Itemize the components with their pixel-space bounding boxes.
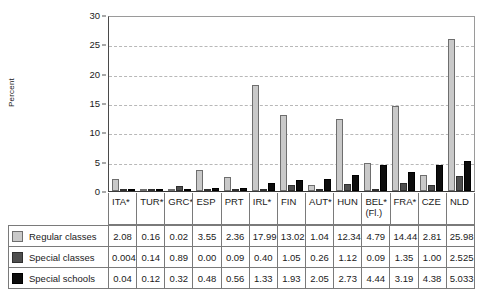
category-label: FIN [278, 193, 306, 224]
table-cell: 1.00 [418, 247, 446, 268]
y-tick-label: 5 [80, 158, 100, 168]
category-label: GRC* [165, 193, 193, 224]
category-label: CZE [419, 193, 447, 224]
legend-label: Special classes [29, 252, 94, 263]
table-cell: 0.14 [137, 247, 165, 268]
table-cell: 4.44 [362, 268, 390, 289]
category-name: GRC* [168, 196, 193, 207]
bar [352, 175, 359, 191]
table-cell: 3.19 [390, 268, 418, 289]
table-cell: 0.09 [221, 247, 249, 268]
table-cell: 12.34 [334, 226, 362, 247]
table-cell: 0.26 [305, 247, 333, 268]
table-cell: 0.89 [165, 247, 193, 268]
bar [344, 184, 351, 191]
table-cell: 4.79 [362, 226, 390, 247]
bar [428, 185, 435, 191]
table-cell: 14.44 [390, 226, 418, 247]
bar-group [334, 17, 362, 191]
bar [420, 175, 427, 191]
bar-group [306, 17, 334, 191]
bar [184, 189, 191, 191]
table-cell: 0.12 [137, 268, 165, 289]
category-label: IRL* [250, 193, 278, 224]
legend-cell: Special schools [9, 268, 109, 289]
category-name: CZE [422, 196, 441, 207]
table-cell: 0.48 [193, 268, 221, 289]
bar [120, 189, 127, 191]
bar-group [249, 17, 277, 191]
table-cell: 5.033 [446, 268, 474, 289]
legend-cell: Special classes [9, 247, 109, 268]
bar [436, 165, 443, 191]
table-cell: 1.93 [277, 268, 305, 289]
table-cell: 0.004 [109, 247, 137, 268]
y-tick-label: 20 [80, 70, 100, 80]
category-label: PRT [222, 193, 250, 224]
table-cell: 1.35 [390, 247, 418, 268]
y-axis-title: Percent [7, 63, 16, 123]
category-name: ITA* [112, 196, 130, 207]
bar [372, 189, 379, 191]
bar [224, 177, 231, 191]
data-table: Regular classes2.080.160.023.552.3617.99… [8, 225, 475, 289]
bar [252, 85, 259, 191]
bar [400, 183, 407, 191]
bar [148, 189, 155, 191]
y-tick-label: 0 [80, 187, 100, 197]
legend-label: Regular classes [29, 231, 97, 242]
table-cell: 0.56 [221, 268, 249, 289]
y-tick-label: 30 [80, 11, 100, 21]
y-tick-mark [102, 192, 106, 193]
bar-group [221, 17, 249, 191]
bar [296, 180, 303, 191]
category-name: TUR* [140, 196, 163, 207]
bar-group [390, 17, 418, 191]
bar [176, 186, 183, 191]
category-name: ESP [196, 196, 215, 207]
table-cell: 17.99 [249, 226, 277, 247]
table-cell: 2.36 [221, 226, 249, 247]
y-tick-label: 10 [80, 129, 100, 139]
bar [380, 165, 387, 191]
bar-group [109, 17, 137, 191]
bar [280, 115, 287, 191]
category-label: HUN [334, 193, 362, 224]
table-cell: 2.73 [334, 268, 362, 289]
bar-group [165, 17, 193, 191]
bar [156, 189, 163, 191]
bar [448, 39, 455, 191]
legend-swatch-icon [12, 231, 23, 242]
bar [268, 183, 275, 191]
table-cell: 13.02 [277, 226, 305, 247]
chart-container: Percent 051015202530 ITA*TUR*GRC*ESPPRTI… [0, 0, 483, 304]
category-name: FIN [281, 196, 296, 207]
bar [128, 189, 135, 191]
bar [336, 119, 343, 191]
bar-group [193, 17, 221, 191]
bars-layer [109, 17, 474, 191]
y-tick-mark [102, 45, 106, 46]
table-row: Special schools0.040.120.320.480.561.331… [9, 268, 475, 289]
table-cell: 0.02 [165, 226, 193, 247]
category-name: HUN [337, 196, 358, 207]
bar [204, 189, 211, 191]
y-tick-mark [102, 16, 106, 17]
bar-group [418, 17, 446, 191]
y-tick-mark [102, 133, 106, 134]
category-sublabel: (Fl.) [365, 207, 388, 218]
table-cell: 1.04 [305, 226, 333, 247]
table-cell: 0.04 [109, 268, 137, 289]
bar [316, 189, 323, 191]
legend-swatch-icon [12, 252, 23, 263]
table-cell: 1.05 [277, 247, 305, 268]
y-tick-label: 25 [80, 41, 100, 51]
legend-label: Special schools [29, 273, 95, 284]
category-name: BEL* [365, 196, 387, 207]
category-label: ITA* [109, 193, 137, 224]
bar-group [446, 17, 474, 191]
bar [392, 106, 399, 191]
category-name: NLD [450, 196, 469, 207]
category-name: FRA* [394, 196, 417, 207]
bar [240, 188, 247, 191]
